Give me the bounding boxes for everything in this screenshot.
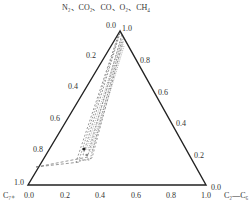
vertex-left-label: C₇₊ <box>3 191 15 200</box>
bottom-tick-1: 0.2 <box>60 191 70 200</box>
right-tick-1: 0.8 <box>140 56 150 65</box>
ternary-triangle <box>28 31 206 185</box>
data-point <box>86 154 88 156</box>
bottom-tick-3: 0.6 <box>131 191 141 200</box>
right-tick-5: 0.0 <box>211 183 221 192</box>
right-tick-2: 0.6 <box>158 88 168 97</box>
left-tick-0: 0.0 <box>106 21 116 30</box>
bottom-tick-4: 0.8 <box>166 191 176 200</box>
left-tick-2: 0.4 <box>68 82 78 91</box>
right-tick-3: 0.4 <box>176 119 186 128</box>
data-point <box>82 147 85 150</box>
left-tick-1: 0.2 <box>86 51 96 60</box>
right-tick-0: 1.0 <box>122 24 132 33</box>
vertex-right-label: C₂—C₆ <box>224 191 248 200</box>
bottom-tick-5: 1.0 <box>201 191 211 200</box>
phase-envelopes <box>36 33 124 167</box>
left-tick-4: 0.8 <box>33 145 43 154</box>
top-axis-title: N₂、CO₂、CO、O₂、CH₄ <box>62 3 150 12</box>
bottom-tick-0: 0.0 <box>24 191 34 200</box>
right-tick-4: 0.2 <box>194 151 204 160</box>
left-tick-3: 0.6 <box>50 114 60 123</box>
left-tick-5: 1.0 <box>14 178 24 187</box>
bottom-tick-2: 0.4 <box>95 191 105 200</box>
